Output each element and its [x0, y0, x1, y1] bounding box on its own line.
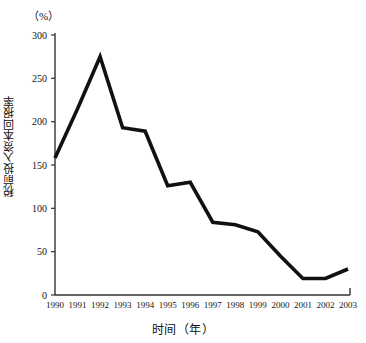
- y-axis-tick-label: 50: [37, 246, 47, 257]
- x-axis-tick-label: 1999: [249, 300, 268, 310]
- y-axis-tick-label: 300: [32, 30, 47, 41]
- x-axis-tick-label: 1994: [136, 300, 155, 310]
- x-axis-tick-label: 1992: [91, 300, 109, 310]
- y-axis-tick-label: 0: [42, 290, 47, 301]
- x-axis-tick-label: 1990: [46, 300, 65, 310]
- y-axis-group: 050100150200250300: [32, 30, 55, 301]
- x-axis-tick-label: 2002: [316, 300, 334, 310]
- x-axis-title: 时间（年）: [0, 320, 366, 337]
- x-axis-tick-label: 1995: [159, 300, 178, 310]
- data-series-line: [55, 57, 348, 279]
- x-axis-group: 1990199119921993199419951996199719981999…: [46, 288, 358, 310]
- x-axis-ticks: 1990199119921993199419951996199719981999…: [46, 300, 358, 310]
- y-axis-tick-label: 200: [32, 116, 47, 127]
- y-axis-tick-label: 150: [32, 160, 47, 171]
- chart-figure: （%） 税前投入资本回报率 050100150200250300 1990199…: [0, 0, 366, 343]
- x-axis-tick-label: 1991: [69, 300, 87, 310]
- x-axis-tick-label: 1993: [114, 300, 133, 310]
- x-axis-tick-label: 1998: [226, 300, 245, 310]
- x-axis-tick-label: 2001: [294, 300, 312, 310]
- x-axis-tick-label: 2000: [271, 300, 290, 310]
- y-axis-tick-label: 100: [32, 203, 47, 214]
- line-chart-plot: 050100150200250300 199019911992199319941…: [0, 0, 366, 343]
- x-axis-tick-label: 2003: [339, 300, 358, 310]
- y-axis-ticks: 050100150200250300: [32, 30, 55, 301]
- x-axis-tick-label: 1997: [204, 300, 223, 310]
- y-axis-tick-label: 250: [32, 73, 47, 84]
- x-axis-tick-label: 1996: [181, 300, 200, 310]
